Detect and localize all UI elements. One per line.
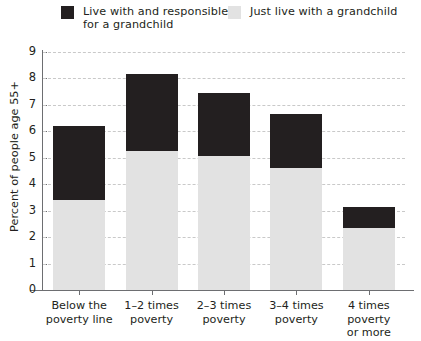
- x-tick-label: 1–2 times poverty: [115, 299, 187, 326]
- x-tick-mark: [369, 290, 370, 295]
- x-tick-label: 3–4 times poverty: [260, 299, 332, 326]
- legend-label-just-live: Just live with a grandchild: [250, 5, 397, 18]
- y-tick-label-8: 8: [10, 72, 36, 84]
- y-tick-mark-0: [42, 290, 47, 291]
- y-axis-ticks: 9876543210: [6, 52, 36, 290]
- legend-swatch-dark-icon: [61, 6, 74, 19]
- bar-segment-responsible[interactable]: [53, 126, 105, 200]
- bar-segment-responsible[interactable]: [126, 74, 178, 151]
- x-tick-mark: [224, 290, 225, 295]
- bar-segment-just-live[interactable]: [126, 151, 178, 290]
- stacked-bar-chart: Live with and responsible for a grandchi…: [0, 0, 421, 341]
- y-tick-label-9: 9: [10, 46, 36, 58]
- y-tick-label-5: 5: [10, 152, 36, 164]
- x-tick-label: Below the poverty line: [43, 299, 115, 326]
- x-tick-label: 2–3 times poverty: [188, 299, 260, 326]
- y-tick-label-3: 3: [10, 205, 36, 217]
- bar-group[interactable]: [343, 207, 395, 290]
- bar-segment-responsible[interactable]: [270, 114, 322, 168]
- x-tick-mark: [296, 290, 297, 295]
- x-tick-mark: [152, 290, 153, 295]
- bar-group[interactable]: [270, 114, 322, 290]
- legend-item-just-live: Just live with a grandchild: [228, 5, 397, 19]
- bar-segment-responsible[interactable]: [198, 93, 250, 156]
- x-tick-mark: [79, 290, 80, 295]
- gridline-8: [43, 78, 405, 79]
- y-tick-label-4: 4: [10, 178, 36, 190]
- bar-group[interactable]: [126, 74, 178, 290]
- y-tick-label-7: 7: [10, 99, 36, 111]
- legend-item-responsible: Live with and responsible for a grandchi…: [61, 5, 228, 32]
- x-axis-line: [30, 290, 414, 291]
- y-tick-label-2: 2: [10, 231, 36, 243]
- y-tick-label-0: 0: [10, 284, 36, 296]
- x-tick-label: 4 times poverty or more: [333, 299, 405, 340]
- bar-segment-responsible[interactable]: [343, 207, 395, 228]
- y-tick-label-1: 1: [10, 258, 36, 270]
- legend-label-responsible: Live with and responsible for a grandchi…: [83, 5, 228, 32]
- bar-segment-just-live[interactable]: [53, 200, 105, 290]
- y-tick-label-6: 6: [10, 125, 36, 137]
- bar-group[interactable]: [198, 93, 250, 290]
- bar-segment-just-live[interactable]: [198, 156, 250, 290]
- plot-area: [43, 52, 405, 290]
- chart-legend: Live with and responsible for a grandchi…: [0, 0, 421, 44]
- bar-segment-just-live[interactable]: [343, 228, 395, 290]
- gridline-9: [43, 52, 405, 53]
- legend-swatch-light-icon: [228, 6, 241, 19]
- bar-group[interactable]: [53, 126, 105, 290]
- bar-segment-just-live[interactable]: [270, 168, 322, 290]
